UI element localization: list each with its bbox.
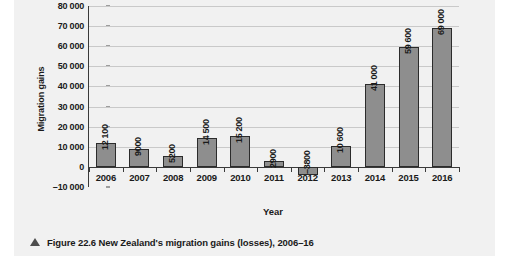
x-tick-label: 2008 bbox=[156, 172, 190, 183]
x-tick-label: 2012 bbox=[291, 172, 325, 183]
y-tick-label: 0 bbox=[36, 162, 84, 172]
triangle-up-icon bbox=[30, 238, 40, 246]
y-axis-ticks: 80 00070 00060 00050 00040 00030 00020 0… bbox=[36, 6, 84, 228]
y-tick-label: 60 000 bbox=[36, 41, 84, 51]
y-tick-label: 10 000 bbox=[36, 142, 84, 152]
bar-value-label: 15 200 bbox=[234, 118, 244, 144]
figure-caption-text: Figure 22.6 New Zealand's migration gain… bbox=[47, 237, 314, 248]
y-tick-label: 30 000 bbox=[36, 102, 84, 112]
x-tick-label: 2006 bbox=[89, 172, 123, 183]
y-tick-label: –10 000 bbox=[36, 182, 84, 192]
x-tick-label: 2009 bbox=[190, 172, 224, 183]
y-tick-label: 40 000 bbox=[36, 81, 84, 91]
y-tick-label: 80 000 bbox=[36, 1, 84, 11]
x-tick-label: 2007 bbox=[123, 172, 157, 183]
bar bbox=[432, 28, 452, 167]
bar-value-label: 41 000 bbox=[369, 66, 379, 92]
x-tick-label: 2011 bbox=[257, 172, 291, 183]
bar-value-label: 9000 bbox=[133, 137, 143, 156]
gridline bbox=[89, 6, 459, 7]
x-tick-label: 2015 bbox=[392, 172, 426, 183]
bar-value-label: 2900 bbox=[268, 149, 278, 168]
x-tick-label: 2016 bbox=[425, 172, 459, 183]
y-tick-label: 50 000 bbox=[36, 61, 84, 71]
figure-caption: Figure 22.6 New Zealand's migration gain… bbox=[14, 232, 495, 252]
bar-value-label: 59 600 bbox=[403, 28, 413, 54]
y-tick-label: 20 000 bbox=[36, 122, 84, 132]
bar-value-label: 14 500 bbox=[201, 119, 211, 145]
y-tick-label: 70 000 bbox=[36, 21, 84, 31]
x-axis-title: Year bbox=[88, 206, 458, 217]
bar-chart: Migration gains 80 00070 00060 00050 000… bbox=[14, 6, 495, 228]
bar-value-label: –3800 bbox=[302, 150, 312, 174]
x-tick-label: 2013 bbox=[324, 172, 358, 183]
x-tick-label: 2014 bbox=[358, 172, 392, 183]
bar-value-label: 12 100 bbox=[100, 124, 110, 150]
figure-panel: Migration gains 80 00070 00060 00050 000… bbox=[14, 0, 495, 256]
gridline bbox=[89, 26, 459, 27]
x-tick-label: 2010 bbox=[224, 172, 258, 183]
bar-value-label: 10 600 bbox=[335, 127, 345, 153]
plot-area: 12 1009000520014 50015 2002900–380010 60… bbox=[88, 6, 459, 187]
bar-value-label: 69 000 bbox=[436, 9, 446, 35]
bar bbox=[399, 47, 419, 167]
bar bbox=[365, 84, 385, 166]
bar-value-label: 5200 bbox=[167, 145, 177, 164]
x-tick-mark bbox=[459, 167, 460, 172]
